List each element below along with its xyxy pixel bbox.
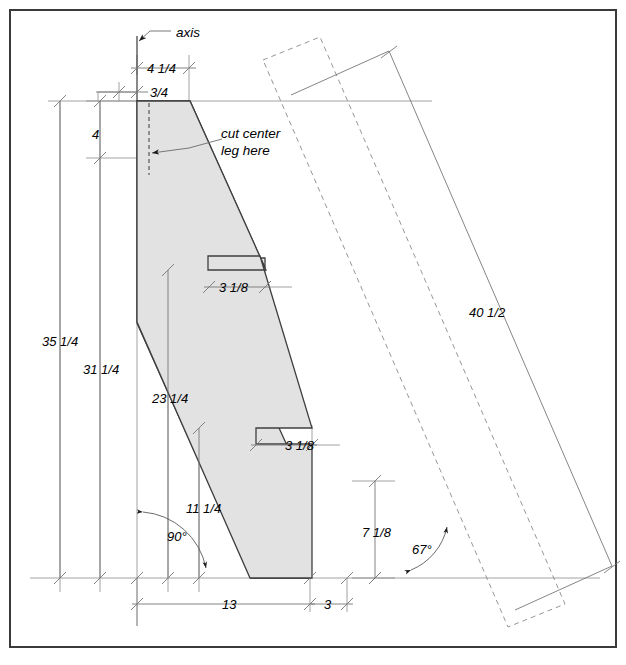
dim-bottom-long: 13: [222, 597, 237, 612]
technical-drawing-canvas: axis: [0, 0, 626, 665]
dim-notch-lower: 3 1/8: [285, 438, 315, 453]
dim-mid-height: 23 1/4: [151, 391, 188, 406]
dim-top-width-outer: 4 1/4: [147, 61, 176, 76]
drawing-sheet: axis: [0, 0, 626, 665]
angle-67-label: 67°: [412, 542, 432, 557]
dim-top-drop: 4: [92, 127, 99, 142]
angle-90-label: 90°: [167, 529, 187, 544]
leg-part: [137, 101, 317, 578]
dim-notch-upper: 3 1/8: [219, 280, 249, 295]
dim-lower-height: 11 1/4: [186, 501, 221, 516]
cut-note-line2: leg here: [221, 143, 270, 158]
dim-left-inner-height: 31 1/4: [83, 362, 119, 377]
dim-right-height: 7 1/8: [362, 525, 392, 540]
dim-diagonal-length: 40 1/2: [469, 305, 506, 320]
dim-top-width-inner: 3/4: [150, 85, 168, 100]
cut-note-line1: cut center: [221, 126, 281, 141]
axis-label: axis: [176, 25, 200, 40]
diagonal-dimension-40: [291, 46, 620, 610]
dim-left-outer-height: 35 1/4: [42, 334, 78, 349]
dim-bottom-short: 3: [324, 597, 332, 612]
